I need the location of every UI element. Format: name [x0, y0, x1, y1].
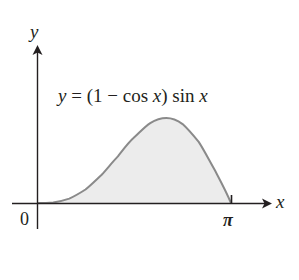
pi-tick-label: π	[223, 211, 233, 229]
equation-var: x	[199, 85, 207, 106]
function-graph: y x 0 π y = (1 − cos x) sin x	[0, 0, 299, 280]
y-axis-label: y	[30, 22, 38, 41]
equation-part: = (1 − cos	[66, 85, 152, 106]
equation-part: ) sin	[161, 85, 199, 106]
x-axis-label: x	[276, 192, 284, 211]
origin-label: 0	[20, 210, 29, 228]
equation-var: x	[153, 85, 161, 106]
shaded-area	[37, 118, 231, 203]
graph-canvas	[0, 0, 299, 280]
function-equation: y = (1 − cos x) sin x	[58, 86, 208, 105]
